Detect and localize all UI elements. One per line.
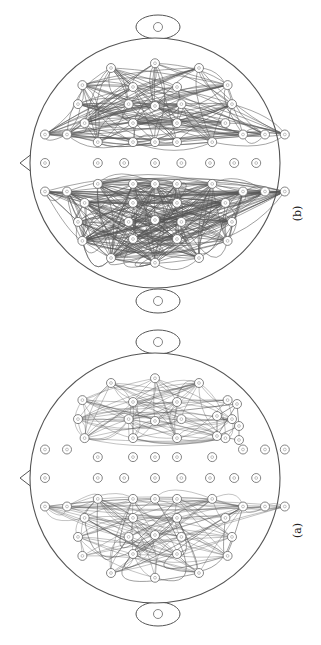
electrode-node (213, 412, 222, 421)
electrode-node (151, 573, 160, 582)
electrode-node (173, 235, 182, 244)
electrode-node (228, 532, 237, 541)
electrode-node (124, 217, 133, 226)
electrode-node (195, 569, 204, 578)
electrode-node (151, 159, 160, 168)
electrode-node (280, 502, 289, 511)
panel-a-caption: (a) (291, 519, 304, 543)
electrode-node (173, 198, 182, 207)
electrode-node (154, 610, 163, 619)
electrode-node (129, 398, 138, 407)
electrode-node (93, 494, 102, 503)
electrode-node (78, 236, 87, 245)
electrode-node (129, 198, 138, 207)
electrode-node (261, 445, 270, 454)
electrode-node (228, 217, 237, 226)
electrode-node (124, 100, 133, 109)
electrode-node (74, 532, 83, 541)
electrode-node (78, 396, 87, 405)
electrode-node (223, 236, 232, 245)
electrode-node (173, 550, 182, 559)
electrode-node (261, 130, 270, 139)
electrode-node (173, 434, 182, 443)
electrode-node (107, 379, 116, 388)
electrode-node (228, 100, 237, 109)
electrode-node (177, 100, 186, 109)
electrode-node (151, 179, 160, 188)
electrode-node (208, 453, 217, 462)
electrode-node (78, 551, 87, 560)
electrode-node (261, 187, 270, 196)
electrode-node (177, 159, 186, 168)
electrode-node (151, 374, 160, 383)
electrode-node (78, 81, 87, 90)
electrode-node (173, 179, 182, 188)
electrode-node (41, 159, 50, 168)
electrode-node (173, 453, 182, 462)
electrode-node (41, 502, 50, 511)
electrode-node (261, 502, 270, 511)
electrode-node (177, 415, 186, 424)
electrode-node (93, 179, 102, 188)
eeg-connectivity-figure (0, 0, 321, 645)
electrode-node (129, 453, 138, 462)
electrode-node (221, 119, 230, 128)
electrode-node (195, 254, 204, 263)
electrode-node (129, 494, 138, 503)
electrode-node (177, 217, 186, 226)
electrode-node (151, 474, 160, 483)
electrode-node (151, 216, 160, 225)
electrode-node (230, 159, 239, 168)
electrode-node (74, 100, 83, 109)
electrode-node (151, 258, 160, 267)
electrode-node (129, 434, 138, 443)
electrode-node (124, 532, 133, 541)
electrode-node (80, 434, 89, 443)
head-panel-b (20, 15, 289, 313)
head-panel-a (20, 330, 289, 626)
electrode-node (80, 198, 89, 207)
electrode-node (151, 417, 160, 426)
electrode-node (151, 494, 160, 503)
electrode-node (195, 379, 204, 388)
electrode-node (154, 297, 163, 306)
electrode-node (129, 235, 138, 244)
electrode-node (41, 187, 50, 196)
electrode-node (151, 531, 160, 540)
electrode-node (280, 130, 289, 139)
electrode-node (173, 494, 182, 503)
electrode-node (233, 400, 242, 409)
electrode-node (223, 551, 232, 560)
electrode-node (41, 474, 50, 483)
electrode-node (93, 474, 102, 483)
electrode-node (208, 494, 217, 503)
electrode-node (239, 187, 248, 196)
electrode-node (239, 130, 248, 139)
electrode-node (230, 474, 239, 483)
electrode-node (235, 436, 244, 445)
electrode-node (151, 59, 160, 68)
electrode-node (93, 453, 102, 462)
electrode-node (120, 474, 129, 483)
electrode-node (63, 187, 72, 196)
electrode-node (41, 445, 50, 454)
electrode-node (107, 254, 116, 263)
electrode-node (173, 138, 182, 147)
electrode-node (93, 159, 102, 168)
electrode-node (280, 187, 289, 196)
electrode-node (239, 502, 248, 511)
electrode-node (208, 138, 217, 147)
electrode-node (223, 396, 232, 405)
electrode-node (63, 445, 72, 454)
electrode-node (154, 338, 163, 347)
electrode-node (120, 159, 129, 168)
electrode-node (223, 81, 232, 90)
electrode-node (93, 138, 102, 147)
electrode-node (41, 130, 50, 139)
electrode-node (177, 474, 186, 483)
electrode-node (154, 23, 163, 32)
electrode-node (239, 445, 248, 454)
electrode-node (213, 432, 222, 441)
electrode-node (195, 64, 204, 73)
electrode-node (129, 138, 138, 147)
